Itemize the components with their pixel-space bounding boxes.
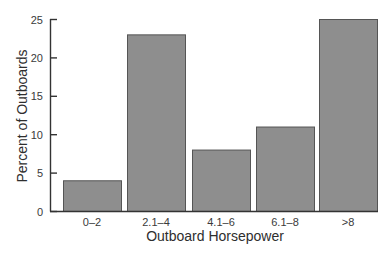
y-tick-label: 25 xyxy=(31,14,43,26)
y-tick-label: 20 xyxy=(31,52,43,64)
bar-4 xyxy=(320,20,378,212)
x-axis: 0–22.1–44.1–66.1–8>8 xyxy=(50,212,378,229)
y-axis: 0510152025 xyxy=(31,14,57,218)
x-category-label: 6.1–8 xyxy=(271,216,299,228)
x-category-label: >8 xyxy=(342,216,355,228)
bars-group xyxy=(64,20,378,212)
bar-chart: 0510152025 0–22.1–44.1–66.1–8>8 Outboard… xyxy=(0,0,391,256)
bar-0 xyxy=(64,181,122,212)
bar-2 xyxy=(193,150,251,211)
x-category-label: 0–2 xyxy=(83,216,101,228)
y-tick-label: 5 xyxy=(37,167,43,179)
x-category-label: 4.1–6 xyxy=(207,216,235,228)
y-tick-label: 15 xyxy=(31,90,43,102)
y-axis-title: Percent of Outboards xyxy=(14,49,30,182)
x-category-label: 2.1–4 xyxy=(142,216,170,228)
bar-3 xyxy=(257,127,315,211)
y-tick-label: 10 xyxy=(31,129,43,141)
y-tick-label: 0 xyxy=(37,206,43,218)
x-axis-title: Outboard Horsepower xyxy=(146,228,284,244)
bar-1 xyxy=(128,35,186,212)
